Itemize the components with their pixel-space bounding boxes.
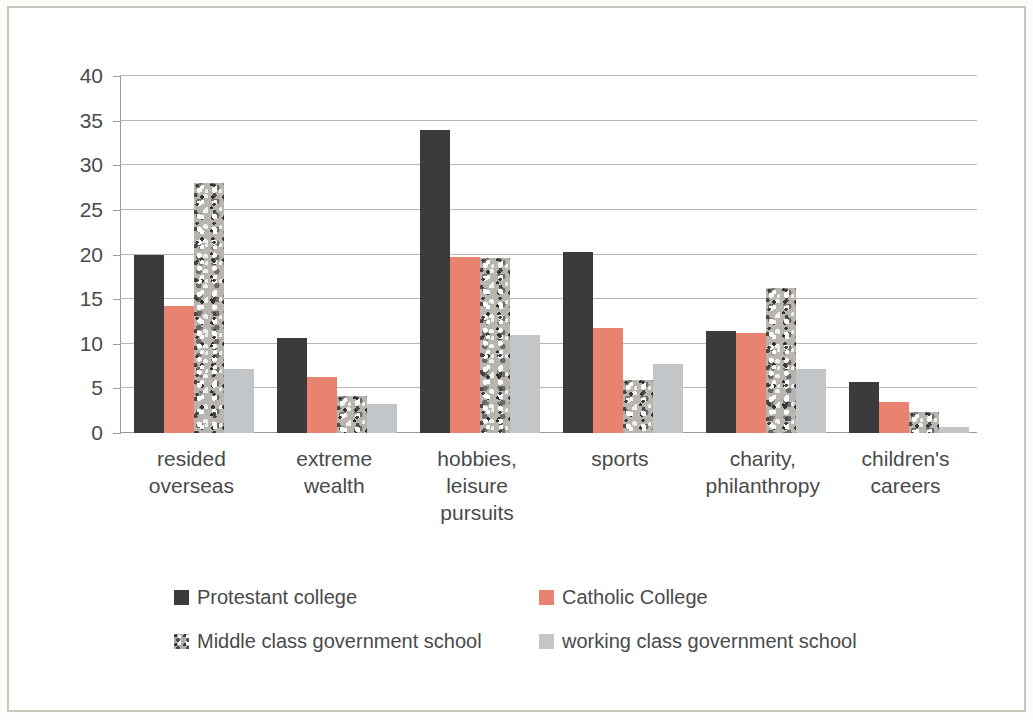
bar <box>879 402 909 433</box>
y-axis-tick-mark <box>113 433 121 434</box>
bar <box>766 288 796 433</box>
x-axis-category-label-line: charity, <box>691 445 834 472</box>
y-axis-tick-label: 20 <box>57 244 103 265</box>
legend-row-top: Protestant collegeCatholic College <box>174 580 894 614</box>
legend-swatch-icon <box>539 590 554 605</box>
y-axis-tick-label: 25 <box>57 199 103 220</box>
bar-group <box>134 76 254 433</box>
y-axis-tick-mark <box>113 210 121 211</box>
grouped-bar-chart: 0510152025303540 residedoverseasextremew… <box>9 8 1028 714</box>
bar-group <box>563 76 683 433</box>
bar <box>939 427 969 433</box>
y-axis-tick-mark <box>113 388 121 389</box>
bar <box>194 183 224 433</box>
legend-label: working class government school <box>562 630 857 653</box>
legend-item[interactable]: Catholic College <box>539 586 708 609</box>
x-axis-category-label-line: leisure <box>406 472 549 499</box>
y-axis-tick-mark <box>113 165 121 166</box>
y-axis-tick-label: 5 <box>57 377 103 398</box>
y-axis-tick-label: 0 <box>57 422 103 443</box>
legend-item[interactable]: Protestant college <box>174 586 357 609</box>
bar <box>653 364 683 433</box>
bar-group <box>277 76 397 433</box>
x-axis-category-label: residedoverseas <box>120 445 263 499</box>
bar <box>736 333 766 433</box>
bar <box>510 335 540 433</box>
bar-group <box>849 76 969 433</box>
legend-label: Protestant college <box>197 586 357 609</box>
y-axis-tick-mark <box>113 121 121 122</box>
bar <box>849 382 879 433</box>
y-axis-tick-labels: 0510152025303540 <box>57 8 103 714</box>
bar <box>224 369 254 433</box>
bar <box>796 369 826 433</box>
bar <box>593 328 623 433</box>
bar <box>134 255 164 434</box>
bar <box>623 380 653 433</box>
bar-group <box>706 76 826 433</box>
bar <box>277 338 307 433</box>
bar <box>450 257 480 433</box>
bar <box>164 306 194 433</box>
legend-label: Catholic College <box>562 586 708 609</box>
y-axis-tick-label: 40 <box>57 65 103 86</box>
bar <box>367 404 397 433</box>
plot-area <box>120 76 977 433</box>
x-axis-category-label: hobbies,leisurepursuits <box>406 445 549 526</box>
x-axis-category-label: sports <box>549 445 692 472</box>
x-axis-category-label: charity,philanthropy <box>691 445 834 499</box>
x-axis-category-label-line: hobbies, <box>406 445 549 472</box>
x-axis-category-label: children'scareers <box>834 445 977 499</box>
legend-swatch-icon <box>174 590 189 605</box>
y-axis-tick-label: 30 <box>57 154 103 175</box>
x-axis-category-label-line: pursuits <box>406 499 549 526</box>
legend-item[interactable]: working class government school <box>539 630 857 653</box>
page-canvas: 0510152025303540 residedoverseasextremew… <box>0 0 1033 720</box>
scanned-page-frame: 0510152025303540 residedoverseasextremew… <box>7 6 1026 712</box>
y-axis-tick-label: 35 <box>57 110 103 131</box>
y-axis-tick-mark <box>113 344 121 345</box>
bar <box>706 331 736 433</box>
legend-swatch-icon <box>539 634 554 649</box>
y-axis-tick-label: 15 <box>57 288 103 309</box>
legend-item[interactable]: Middle class government school <box>174 630 482 653</box>
bar <box>307 377 337 433</box>
bar-group <box>420 76 540 433</box>
legend-row-bottom: Middle class government schoolworking cl… <box>174 624 894 658</box>
y-axis-tick-mark <box>113 76 121 77</box>
x-axis-category-label-line: overseas <box>120 472 263 499</box>
y-axis-tick-mark <box>113 299 121 300</box>
x-axis-category-labels: residedoverseasextremewealthhobbies,leis… <box>120 445 977 555</box>
x-axis-category-label-line: children's <box>834 445 977 472</box>
legend-swatch-icon <box>174 634 189 649</box>
y-axis-tick-label: 10 <box>57 333 103 354</box>
x-axis-category-label-line: wealth <box>263 472 406 499</box>
bar <box>909 412 939 433</box>
x-axis-category-label-line: resided <box>120 445 263 472</box>
chart-legend: Protestant collegeCatholic College Middl… <box>174 580 894 670</box>
x-axis-category-label: extremewealth <box>263 445 406 499</box>
x-axis-category-label-line: extreme <box>263 445 406 472</box>
legend-label: Middle class government school <box>197 630 482 653</box>
x-axis-category-label-line: sports <box>549 445 692 472</box>
bar <box>480 258 510 433</box>
x-axis-category-label-line: philanthropy <box>691 472 834 499</box>
bar <box>337 396 367 433</box>
x-axis-category-label-line: careers <box>834 472 977 499</box>
bar <box>563 252 593 433</box>
y-axis-tick-mark <box>113 255 121 256</box>
bar <box>420 130 450 433</box>
